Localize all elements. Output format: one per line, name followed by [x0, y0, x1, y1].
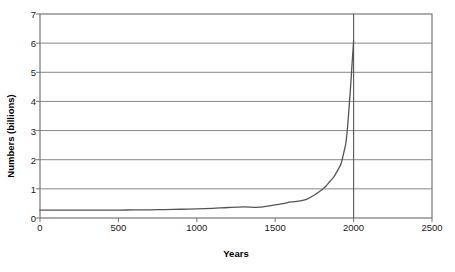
x-tick-label: 1000 [186, 222, 207, 233]
x-tick-label: 500 [110, 222, 126, 233]
x-tick-label: 2000 [343, 222, 364, 233]
plot-frame [40, 14, 432, 218]
x-tick-label: 1500 [265, 222, 286, 233]
population-growth-chart: Numbers (billions) 01234567 050010001500… [0, 0, 455, 272]
data-series [40, 41, 354, 210]
x-axis-title: Years [40, 248, 432, 259]
plot-area [0, 0, 455, 272]
x-tick-label: 0 [37, 222, 42, 233]
gridlines [40, 43, 432, 189]
axis-ticks [36, 14, 432, 222]
x-tick-label: 2500 [421, 222, 442, 233]
